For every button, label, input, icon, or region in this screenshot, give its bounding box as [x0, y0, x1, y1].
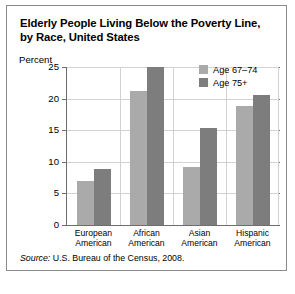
- bar: [130, 91, 147, 225]
- x-axis-category-label: AfricanAmerican: [120, 228, 174, 248]
- figure-container: Elderly People Living Below the Poverty …: [6, 5, 287, 271]
- source-label: Source:: [20, 253, 50, 263]
- category-separator: [120, 67, 121, 225]
- x-axis-category-label-line: African: [120, 228, 174, 238]
- source-note: Source: U.S. Bureau of the Census, 2008.: [20, 253, 184, 263]
- y-axis-tick-label: 0: [37, 220, 59, 230]
- x-axis-category-label-line: American: [226, 238, 280, 248]
- bar: [94, 169, 111, 225]
- y-axis-tick-label: 5: [37, 188, 59, 198]
- x-axis-line: [66, 225, 280, 226]
- y-axis-tick-mark-right: [275, 225, 280, 226]
- bar: [183, 167, 200, 225]
- bar: [236, 106, 253, 225]
- chart-title-line-2: by Race, United States: [20, 31, 275, 45]
- x-axis-category-label: AsianAmerican: [173, 228, 227, 248]
- legend-item-label: Age 75+: [213, 78, 248, 88]
- legend-item-label: Age 67–74: [213, 65, 257, 75]
- x-axis-category-label-line: American: [120, 238, 174, 248]
- x-axis-category-label-line: Asian: [173, 228, 227, 238]
- legend-swatch-icon: [199, 78, 208, 87]
- category-separator: [226, 67, 227, 225]
- legend-item: Age 67–74: [199, 63, 257, 76]
- plot-right-edge: [278, 67, 279, 225]
- category-separator: [173, 67, 174, 225]
- source-text: U.S. Bureau of the Census, 2008.: [53, 253, 185, 263]
- x-axis-category-label: HispanicAmerican: [226, 228, 280, 248]
- y-axis-tick-label: 15: [37, 125, 59, 135]
- x-axis-category-label-line: American: [67, 238, 121, 248]
- bar: [253, 95, 270, 225]
- x-axis-category-label-line: European: [67, 228, 121, 238]
- plot-area: [67, 67, 279, 225]
- legend-item: Age 75+: [199, 76, 257, 89]
- bar: [147, 67, 164, 225]
- chart-title-line-1: Elderly People Living Below the Poverty …: [20, 17, 275, 31]
- bar: [200, 128, 217, 225]
- y-axis-tick-label: 25: [37, 62, 59, 72]
- page-title: Elderly People Living Below the Poverty …: [20, 17, 275, 44]
- x-axis-category-label: EuropeanAmerican: [67, 228, 121, 248]
- horizontal-scrollbar-track[interactable]: [0, 279, 295, 290]
- x-axis-category-label-line: American: [173, 238, 227, 248]
- y-axis-tick-label: 20: [37, 94, 59, 104]
- y-axis-tick-label: 10: [37, 157, 59, 167]
- bar: [77, 181, 94, 225]
- legend: Age 67–74 Age 75+: [199, 63, 257, 89]
- x-axis-category-label-line: Hispanic: [226, 228, 280, 238]
- y-axis-tick-mark: [62, 225, 67, 226]
- legend-swatch-icon: [199, 65, 208, 74]
